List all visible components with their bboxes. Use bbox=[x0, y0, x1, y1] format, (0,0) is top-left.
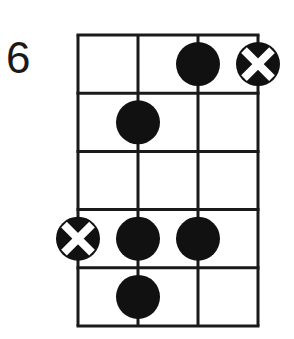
fretboard-grid bbox=[77, 35, 260, 326]
muted-string-marker bbox=[236, 42, 280, 86]
chord-diagram bbox=[0, 0, 294, 339]
finger-dot bbox=[176, 42, 220, 86]
muted-string-marker bbox=[56, 217, 100, 261]
finger-dot bbox=[116, 100, 160, 144]
finger-dot bbox=[116, 275, 160, 319]
finger-dot bbox=[116, 217, 160, 261]
finger-dot bbox=[176, 217, 220, 261]
finger-markers bbox=[56, 42, 280, 319]
